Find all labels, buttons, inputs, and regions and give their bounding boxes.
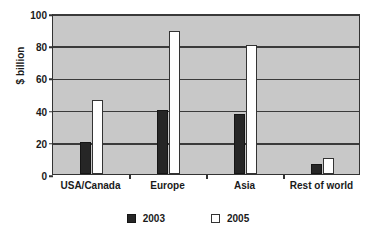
bar-2003-rest-of-world	[311, 164, 322, 174]
legend-item-2005: 2005	[211, 213, 249, 224]
bar-group	[207, 15, 284, 174]
x-axis-category-label: USA/Canada	[60, 180, 120, 191]
legend-label: 2005	[227, 213, 249, 224]
bar-2005-rest-of-world	[323, 158, 334, 174]
x-axis-category-label: Rest of world	[290, 180, 353, 191]
legend-swatch-icon	[211, 214, 220, 223]
x-axis-category-label: Asia	[234, 180, 255, 191]
y-axis-title: $ billion	[15, 16, 26, 116]
bar-group	[284, 15, 361, 174]
chart-legend: 20032005	[0, 213, 376, 224]
legend-item-2003: 2003	[127, 213, 165, 224]
bar-group	[53, 15, 130, 174]
y-axis-tick-label: 40	[36, 106, 47, 117]
bar-group	[130, 15, 207, 174]
y-axis-tick-label: 60	[36, 74, 47, 85]
legend-swatch-icon	[127, 214, 136, 223]
bar-2005-asia	[246, 45, 257, 174]
y-axis-tick-label: 0	[41, 171, 47, 182]
x-axis-tick-mark	[206, 174, 208, 179]
bar-2005-europe	[169, 31, 180, 174]
legend-label: 2003	[143, 213, 165, 224]
bar-2005-usa-canada	[92, 100, 103, 174]
y-axis-tick-label: 100	[30, 10, 47, 21]
bar-2003-europe	[157, 110, 168, 174]
x-axis-tick-mark	[283, 174, 285, 179]
plot-area: 020406080100	[52, 14, 360, 175]
y-axis-tick-label: 20	[36, 138, 47, 149]
bar-chart-figure: $ billion 020406080100 USA/CanadaEuropeA…	[0, 0, 376, 247]
x-axis-category-label: Europe	[150, 180, 184, 191]
y-axis-tick-label: 80	[36, 42, 47, 53]
y-axis-tick-mark	[49, 175, 53, 177]
bar-2003-asia	[234, 114, 245, 174]
x-axis-tick-mark	[129, 174, 131, 179]
bar-2003-usa-canada	[80, 142, 91, 174]
